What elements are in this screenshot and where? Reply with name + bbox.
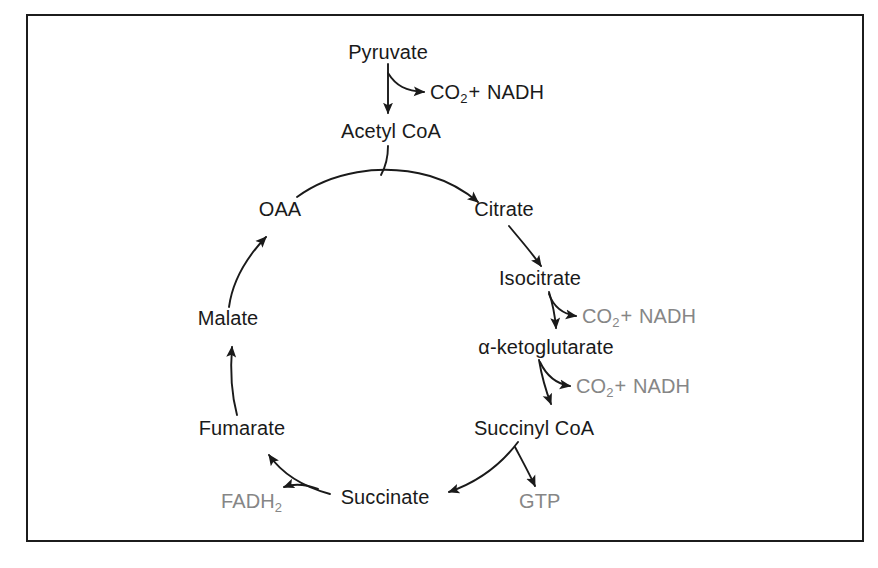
co2-formula: CO — [430, 81, 460, 103]
plus-sign: + — [468, 81, 482, 103]
node-fumarate: Fumarate — [199, 418, 285, 438]
node-isocitrate: Isocitrate — [499, 268, 581, 288]
nadh-label: NADH — [487, 81, 544, 103]
byproduct-isocitrate-co2-nadh: CO2+ NADH — [582, 306, 696, 326]
fadh-formula: FADH — [221, 490, 275, 512]
fadh-subscript: 2 — [275, 500, 282, 515]
citric-acid-cycle-diagram: Pyruvate Acetyl CoA OAA Citrate Isocitra… — [0, 0, 878, 568]
co2-subscript: 2 — [612, 315, 619, 330]
node-acetyl-coa: Acetyl CoA — [341, 121, 441, 141]
co2-subscript: 2 — [606, 385, 613, 400]
nadh-label: NADH — [639, 305, 696, 327]
co2-formula: CO — [576, 375, 606, 397]
nadh-label: NADH — [633, 375, 690, 397]
plus-sign: + — [614, 375, 628, 397]
co2-formula: CO — [582, 305, 612, 327]
node-pyruvate: Pyruvate — [348, 42, 428, 62]
byproduct-gtp: GTP — [519, 491, 560, 511]
node-succinyl-coa: Succinyl CoA — [474, 418, 594, 438]
byproduct-pyruvate-co2-nadh: CO2+ NADH — [430, 82, 544, 102]
co2-subscript: 2 — [460, 91, 467, 106]
node-succinate: Succinate — [341, 487, 430, 507]
node-malate: Malate — [198, 308, 259, 328]
node-citrate: Citrate — [474, 199, 534, 219]
node-alpha-ketoglutarate: α-ketoglutarate — [478, 337, 613, 357]
byproduct-fadh2: FADH2 — [221, 491, 282, 511]
node-oaa: OAA — [259, 199, 302, 219]
plus-sign: + — [620, 305, 634, 327]
byproduct-akg-co2-nadh: CO2+ NADH — [576, 376, 690, 396]
